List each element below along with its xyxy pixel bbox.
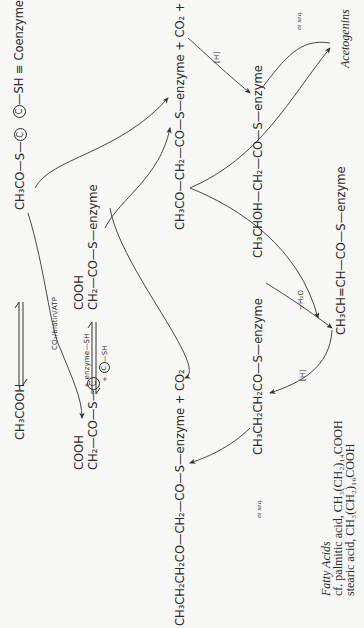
transfer-label-top: + enzyme—SH [80,333,94,388]
acetogenin-arrow-2 [262,42,330,88]
equilibrium-arrow [15,302,27,385]
acetyl-coa-text: CH₃CO—S— [13,141,27,210]
condensation-arrow-2 [105,128,170,228]
malonyl-enzyme: COOH CH₂—CO—S—enzyme [72,184,100,310]
reduction-label-2: [H] [296,370,310,381]
condensation-arrow-3 [110,208,189,378]
coenzyme-symbol-icon: C [13,105,26,118]
condensation-arrow-4 [190,428,250,463]
stearic-acid-line: stearic acid, CH₃(CH₂)₁₆COOH [344,420,356,596]
malonyl-enzyme-chain: CH₂—CO—S—enzyme [86,184,100,310]
et-seq-label-fatty-acids: et seq. [252,499,266,518]
biosynthesis-diagram: C—SH ≡ Coenzyme A) CH₃COOH CH₃CO—S—C CO₂… [0,0,364,628]
butyryl-enzyme: CH₃CH₂CH₂CO—S—enzyme [251,298,265,455]
sh-text: —SH [101,345,109,362]
acetic-acid: CH₃COOH [13,384,27,440]
crotonyl-enzyme: CH₃CH=CH—CO—S—enzyme [334,166,348,335]
carboxylation-label: CO₂/biotin/ATP [48,297,62,350]
coenzyme-a-legend: C—SH ≡ Coenzyme A) [12,0,26,118]
acetogenins-label: Acetogenins [338,9,352,68]
hydroxybutyryl-enzyme: CH₃CHOH—CH₂—CO—S—enzyme [251,65,265,258]
malonyl-coa-chain: CH₂—CO—S— [86,390,100,470]
malonyl-coa-carboxyl: COOH [72,377,86,470]
reduction-arrow-1 [188,38,250,93]
malonyl-enzyme-carboxyl: COOH [72,184,86,310]
plus-sign: + [101,374,109,383]
reduction-arrow-2 [270,330,332,393]
transfer-label-bottom: + C—SH [98,345,112,382]
acetoacetyl-text: CH₃CO—CH₂—CO—S—enzyme + CO₂ + [173,0,187,230]
acetoacetyl-enzyme: CH₃CO—CH₂—CO—S—enzyme + CO₂ + C—SH [173,0,187,230]
fatty-acids-block: Fatty Acids cf. palmitic acid, CH₃(CH₂)₁… [320,420,356,596]
coenzyme-symbol-icon: C [14,128,27,141]
et-seq-label-acetogenins: et seq. [292,11,306,30]
acetyl-coa: CH₃CO—S—C [13,128,27,210]
coenzyme-symbol-icon: C [99,363,110,374]
ketohexanoyl-enzyme: CH₃CH₂CH₂CO—CH₂—CO—S—enzyme + CO₂ [173,369,187,626]
legend-text: —SH ≡ Coenzyme A) [12,0,26,105]
malonyl-coa: COOH CH₂—CO—S—C [72,377,100,470]
dehydration-label: −H₂O [294,290,308,310]
reduction-label-1: [H] [210,52,224,63]
